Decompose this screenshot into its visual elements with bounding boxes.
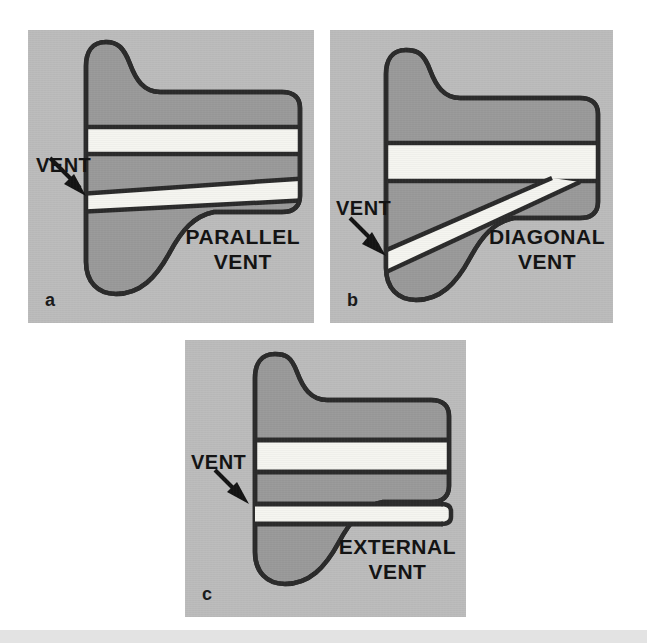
panel-letter-b: b [347, 291, 358, 309]
vent-type-label-a: PARALLEL VENT [186, 225, 300, 275]
arrow-icon [215, 470, 249, 504]
vent-callout-label-a: VENT [36, 155, 91, 175]
page-bottom-band [0, 630, 647, 643]
vent-type-label-c-line1: EXTERNAL [339, 535, 456, 560]
panel-letter-a: a [45, 291, 55, 309]
vent-type-label-c: EXTERNAL VENT [339, 535, 456, 585]
vent-band-upper-a [78, 127, 310, 154]
vent-callout-label-c: VENT [191, 452, 246, 472]
vent-band-horizontal-b [378, 143, 610, 181]
vent-band-external-c [255, 504, 451, 524]
vent-type-label-c-line2: VENT [339, 560, 456, 585]
figure-root: VENT PARALLEL VENT a [0, 0, 647, 643]
vent-type-label-a-line1: PARALLEL [186, 225, 300, 250]
vent-type-label-b: DIAGONAL VENT [489, 225, 605, 275]
vent-type-label-b-line2: VENT [489, 250, 605, 275]
panel-b-drawing [330, 30, 613, 323]
vent-type-label-a-line2: VENT [186, 250, 300, 275]
panel-letter-c: c [202, 585, 212, 603]
panel-external-vent: VENT EXTERNAL VENT c [185, 340, 466, 617]
panel-a-drawing [28, 30, 314, 323]
panel-parallel-vent: VENT PARALLEL VENT a [28, 30, 314, 323]
arrow-icon [350, 218, 386, 256]
vent-callout-label-b: VENT [336, 198, 391, 218]
vent-band-upper-c [247, 440, 457, 472]
vent-type-label-b-line1: DIAGONAL [489, 225, 605, 250]
panel-diagonal-vent: VENT DIAGONAL VENT b [330, 30, 613, 323]
